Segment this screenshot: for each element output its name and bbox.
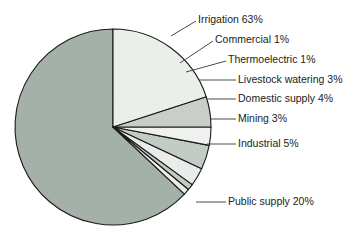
callout-thermoelectric-text: Thermoelectric 1% xyxy=(228,53,316,65)
callout-irrigation-text: Irrigation 63% xyxy=(198,13,263,25)
callout-domestic-supply-text: Domestic supply 4% xyxy=(238,92,333,104)
callout-commercial-text: Commercial 1% xyxy=(215,33,289,45)
callout-public-supply-text: Public supply 20% xyxy=(228,195,314,207)
callout-irrigation-leader-line xyxy=(171,21,196,36)
callout-mining-text: Mining 3% xyxy=(238,112,287,124)
callout-commercial-leader-line xyxy=(180,41,213,63)
pie-chart-svg: Irrigation 63%Commercial 1%Thermoelectri… xyxy=(0,0,356,236)
pie-chart-figure: Irrigation 63%Commercial 1%Thermoelectri… xyxy=(0,0,356,236)
callout-labels-group: Irrigation 63%Commercial 1%Thermoelectri… xyxy=(198,13,342,207)
callout-thermoelectric-leader-line xyxy=(186,61,226,72)
pie-slices-group xyxy=(15,29,211,225)
callout-livestock-watering-text: Livestock watering 3% xyxy=(238,73,342,85)
callout-industrial-text: Industrial 5% xyxy=(238,137,299,149)
